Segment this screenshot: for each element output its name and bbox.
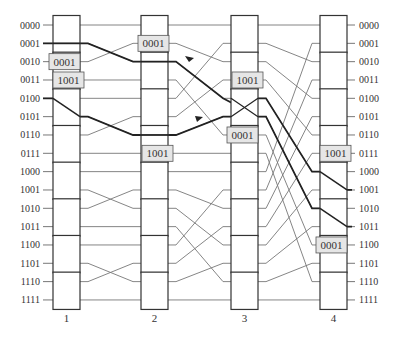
output-label: 1000 — [359, 166, 379, 177]
output-label: 1110 — [359, 276, 378, 287]
wire — [258, 190, 320, 245]
switch-box — [141, 199, 168, 236]
switch-box — [141, 235, 168, 272]
switch-box — [231, 162, 258, 199]
address-tag-text: 1001 — [237, 74, 259, 86]
input-label: 1001 — [20, 184, 40, 195]
input-label: 0001 — [20, 38, 40, 49]
output-label: 0011 — [359, 74, 379, 85]
wire — [80, 190, 141, 208]
output-label: 1011 — [359, 221, 379, 232]
address-tag-text: 0001 — [321, 239, 343, 251]
input-label: 0111 — [21, 148, 40, 159]
stage-labels: 1234 — [64, 312, 337, 324]
output-label: 1100 — [359, 239, 379, 250]
input-label: 0010 — [20, 56, 40, 67]
stage-label: 4 — [331, 312, 337, 324]
output-label: 0111 — [359, 148, 378, 159]
switch-box — [53, 235, 80, 272]
wire — [168, 227, 231, 264]
output-label: 0010 — [359, 56, 379, 67]
switch-box — [231, 199, 258, 236]
address-tags: 00011001000110011001000110010001 — [49, 35, 351, 253]
input-label: 1100 — [20, 239, 40, 250]
input-label: 0101 — [20, 111, 40, 122]
output-label: 1001 — [359, 184, 379, 195]
switch-box — [141, 272, 168, 309]
wire — [168, 263, 231, 281]
arrow-right-icon — [195, 116, 203, 122]
path-0001-to-1001 — [43, 43, 352, 226]
wire — [168, 190, 231, 208]
switch-box — [231, 272, 258, 309]
output-label: 1010 — [359, 203, 379, 214]
switch-box — [141, 162, 168, 199]
wire — [168, 43, 231, 98]
address-tag-text: 1001 — [147, 147, 169, 159]
switch-box — [53, 272, 80, 309]
input-label: 0110 — [20, 129, 40, 140]
wire — [80, 263, 141, 281]
input-label: 1110 — [21, 276, 40, 287]
input-label: 0011 — [20, 74, 40, 85]
switch-box — [320, 16, 347, 53]
stage-label: 2 — [152, 312, 158, 324]
input-label: 1000 — [20, 166, 40, 177]
switch-box — [231, 16, 258, 53]
output-label: 0110 — [359, 129, 379, 140]
switch-box — [320, 52, 347, 89]
output-labels: 0000000100100011010001010110011110001001… — [359, 20, 379, 306]
wire — [168, 43, 231, 61]
address-tag-text: 0001 — [232, 129, 254, 141]
output-label: 0000 — [359, 20, 379, 31]
input-label: 1101 — [20, 258, 40, 269]
switch-boxes — [53, 16, 347, 310]
wire — [168, 208, 231, 245]
address-tag-text: 0001 — [54, 56, 76, 68]
wire — [258, 227, 320, 264]
output-label: 0100 — [359, 93, 379, 104]
switch-box — [53, 199, 80, 236]
output-label: 1111 — [359, 294, 378, 305]
input-label: 1010 — [20, 203, 40, 214]
butterfly-network-diagram: 00011001000110011001000110010001 0000000… — [0, 0, 399, 337]
switch-box — [141, 52, 168, 89]
switch-box — [53, 16, 80, 53]
path-0100-to-1011 — [43, 98, 352, 190]
highlighted-paths — [43, 43, 352, 226]
output-label: 1101 — [359, 258, 379, 269]
wire — [168, 227, 231, 282]
stage-label: 1 — [64, 312, 70, 324]
input-label: 1111 — [21, 294, 40, 305]
wires — [43, 25, 355, 300]
arrow-up-left-icon — [185, 56, 194, 62]
input-labels: 0000000100100011010001010110011110001001… — [20, 20, 40, 306]
address-tag-text: 0001 — [143, 37, 165, 49]
wire — [168, 190, 231, 245]
switch-box — [320, 272, 347, 309]
wire — [258, 62, 320, 99]
switch-box — [141, 89, 168, 126]
stage-label: 3 — [242, 312, 248, 324]
switch-box — [53, 162, 80, 199]
input-label: 0000 — [20, 20, 40, 31]
output-label: 0101 — [359, 111, 379, 122]
input-label: 0100 — [20, 93, 40, 104]
switch-box — [53, 125, 80, 162]
switch-box — [320, 89, 347, 126]
address-tag-text: 1001 — [325, 147, 347, 159]
input-label: 1011 — [20, 221, 40, 232]
address-tag-text: 1001 — [58, 74, 80, 86]
output-label: 0001 — [359, 38, 379, 49]
switch-box — [231, 235, 258, 272]
